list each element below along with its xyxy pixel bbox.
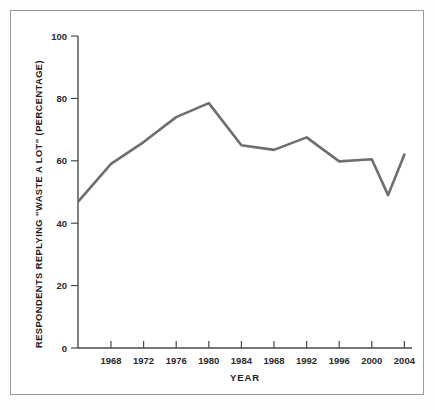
x-tick-label-3: 1976 xyxy=(166,355,187,366)
line-chart: 0 20 40 60 80 100 RESPONDENTS REPLYING "… xyxy=(0,0,435,410)
y-tick-label-80: 80 xyxy=(56,93,67,104)
y-tick-label-60: 60 xyxy=(56,155,67,166)
y-tick-label-40: 40 xyxy=(56,218,67,229)
x-tick-label-1: 1968 xyxy=(100,355,121,366)
y-axis-group: 0 20 40 60 80 100 RESPONDENTS REPLYING "… xyxy=(34,31,78,354)
data-series-line xyxy=(78,103,404,201)
figure-root: 0 20 40 60 80 100 RESPONDENTS REPLYING "… xyxy=(0,0,435,410)
x-tick-label-9: 2000 xyxy=(361,355,382,366)
y-tick-label-20: 20 xyxy=(56,280,67,291)
x-axis-title: YEAR xyxy=(230,372,260,383)
x-tick-label-8: 1996 xyxy=(329,355,350,366)
y-tick-label-0: 0 xyxy=(62,343,67,354)
y-axis-title: RESPONDENTS REPLYING "WASTE A LOT" (PERC… xyxy=(34,60,44,348)
x-tick-label-10: 2004 xyxy=(394,355,416,366)
x-tick-label-2: 1972 xyxy=(133,355,154,366)
x-tick-label-7: 1992 xyxy=(296,355,317,366)
x-tick-label-6: 1968 xyxy=(263,355,284,366)
x-tick-label-4: 1980 xyxy=(198,355,219,366)
x-axis-group: 1968 1972 1976 1980 1984 1968 1992 1996 … xyxy=(78,341,416,383)
x-tick-label-5: 1984 xyxy=(231,355,253,366)
y-tick-label-100: 100 xyxy=(51,31,67,42)
